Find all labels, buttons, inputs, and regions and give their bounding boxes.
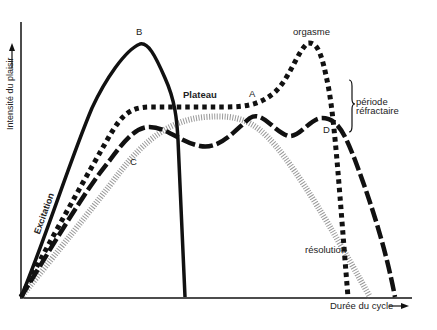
label-b: B [136, 27, 142, 37]
x-axis-label: Durée du cycle [330, 301, 393, 311]
y-axis-label: Intensité du plaisir [5, 57, 15, 130]
label-refractory-2: réfractaire [356, 106, 399, 116]
label-d: D [323, 125, 330, 135]
label-orgasm: orgasme [293, 27, 330, 37]
diagram-canvas [0, 0, 437, 330]
brace-icon [349, 80, 355, 132]
label-a: A [249, 89, 255, 99]
label-plateau: Plateau [183, 90, 217, 100]
label-resolution: résolution [305, 245, 346, 255]
label-c: C [130, 157, 137, 167]
curve-c-grey-hatched [21, 116, 370, 297]
